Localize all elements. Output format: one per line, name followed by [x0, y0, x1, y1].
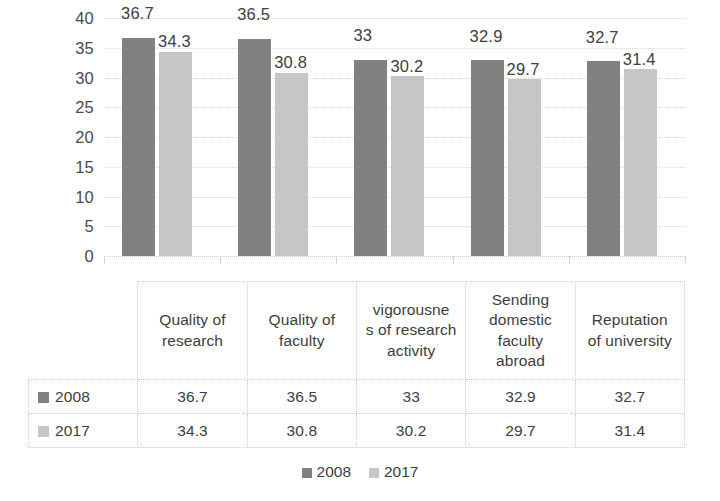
table-row-header-label: 2017: [55, 422, 90, 439]
bar-group: 32.731.4: [569, 18, 685, 256]
series-color-swatch-icon: [38, 426, 49, 437]
legend-item-label: 2017: [384, 463, 418, 480]
table-cell: 34.3: [138, 414, 247, 448]
bar-value-label: 32.9: [470, 28, 503, 45]
table-row-header: 2017: [29, 414, 138, 448]
data-table-body: Quality ofresearchQuality offacultyvigor…: [29, 282, 685, 448]
bar-2008[interactable]: [471, 60, 504, 256]
x-axis-tick: [336, 256, 337, 264]
bar-value-label: 30.8: [274, 54, 307, 71]
bar-value-label: 36.7: [121, 5, 154, 22]
y-axis-tick-label: 25: [75, 99, 94, 116]
legend-color-swatch-icon: [369, 468, 379, 478]
x-axis-tick: [453, 256, 454, 264]
y-axis-tick-label: 5: [85, 218, 94, 235]
table-cell: 30.8: [247, 414, 356, 448]
x-axis-tickmarks: [104, 256, 685, 264]
grouped-bar-chart: 4035302520151050 36.734.336.530.83330.23…: [0, 0, 720, 501]
table-category-header: Sendingdomesticfacultyabroad: [466, 282, 575, 380]
bar-group: 36.734.3: [104, 18, 220, 256]
bar-group: 36.530.8: [220, 18, 336, 256]
y-axis-tick-label: 40: [75, 10, 94, 27]
y-axis-tick-label: 0: [85, 248, 94, 265]
plot-area: 4035302520151050 36.734.336.530.83330.23…: [0, 18, 720, 276]
y-axis-tick-label: 15: [75, 159, 94, 176]
table-cell: 32.7: [575, 380, 684, 414]
table-cell: 31.4: [575, 414, 684, 448]
data-table: Quality ofresearchQuality offacultyvigor…: [28, 281, 685, 448]
table-category-header: vigorousnes of researchactivity: [356, 282, 465, 380]
table-row-header: 2008: [29, 380, 138, 414]
legend-item-label: 2008: [317, 463, 351, 480]
table-corner-cell: [29, 282, 138, 380]
table-cell: 33: [356, 380, 465, 414]
table-cell: 29.7: [466, 414, 575, 448]
table-row-categories: Quality ofresearchQuality offacultyvigor…: [29, 282, 685, 380]
bar-2017[interactable]: [508, 79, 541, 256]
bar-value-label: 36.5: [237, 6, 270, 23]
bar-groups: 36.734.336.530.83330.232.929.732.731.4: [104, 18, 685, 256]
bar-2017[interactable]: [624, 69, 657, 256]
x-axis-tick: [569, 256, 570, 264]
bar-2017[interactable]: [159, 52, 192, 256]
y-axis: 4035302520151050: [52, 18, 94, 256]
table-category-header: Reputationof university: [575, 282, 684, 380]
bar-2017[interactable]: [275, 73, 308, 256]
chart-legend: 20082017: [0, 463, 720, 481]
bar-2008[interactable]: [122, 38, 155, 256]
table-row: 201734.330.830.229.731.4: [29, 414, 685, 448]
y-axis-tick-label: 35: [75, 40, 94, 57]
bar-value-label: 31.4: [623, 51, 656, 68]
table-cell: 30.2: [356, 414, 465, 448]
bar-2017[interactable]: [391, 76, 424, 256]
bar-value-label: 34.3: [158, 33, 191, 50]
table-row-header-label: 2008: [55, 388, 90, 405]
y-axis-tick-label: 10: [75, 188, 94, 205]
legend-item-2017[interactable]: 2017: [369, 463, 418, 481]
table-cell: 36.5: [247, 380, 356, 414]
bar-value-label: 33: [353, 27, 372, 44]
bar-2008[interactable]: [238, 39, 271, 256]
bars-and-gridlines: 36.734.336.530.83330.232.929.732.731.4: [104, 18, 685, 256]
table-row: 200836.736.53332.932.7: [29, 380, 685, 414]
bar-group: 3330.2: [336, 18, 452, 256]
bar-value-label: 32.7: [586, 29, 619, 46]
x-axis-tick: [685, 256, 686, 264]
table-category-header: Quality offaculty: [247, 282, 356, 380]
table-cell: 32.9: [466, 380, 575, 414]
table-cell: 36.7: [138, 380, 247, 414]
table-category-header: Quality ofresearch: [138, 282, 247, 380]
bar-2008[interactable]: [587, 61, 620, 256]
legend-item-2008[interactable]: 2008: [302, 463, 351, 481]
x-axis-tick: [220, 256, 221, 264]
bar-value-label: 29.7: [507, 61, 540, 78]
legend-color-swatch-icon: [302, 468, 312, 478]
bar-group: 32.929.7: [453, 18, 569, 256]
bar-2008[interactable]: [354, 60, 387, 256]
y-axis-tick-label: 20: [75, 129, 94, 146]
x-axis-tick: [104, 256, 105, 264]
y-axis-tick-label: 30: [75, 69, 94, 86]
bar-value-label: 30.2: [390, 58, 423, 75]
series-color-swatch-icon: [38, 392, 49, 403]
